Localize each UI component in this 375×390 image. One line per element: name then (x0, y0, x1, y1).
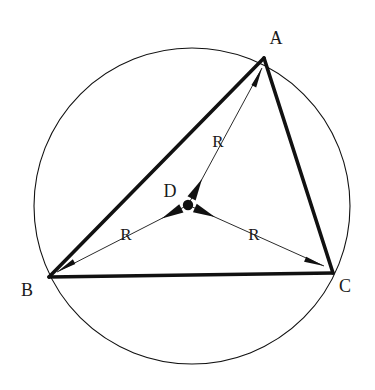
arrowhead-center-toward-B (162, 204, 184, 218)
radius-label-right: R (248, 225, 260, 244)
vertex-label-B: B (21, 280, 33, 300)
edge-AB (49, 58, 264, 277)
arrowhead-center-toward-A (188, 179, 203, 201)
center-point-label: D (164, 181, 177, 201)
arrowhead-at-vertex-C (304, 257, 324, 266)
figure-canvas: A B C D R R R (0, 0, 375, 390)
vertex-label-A: A (270, 28, 283, 48)
edge-BC (49, 273, 333, 277)
edge-CA (264, 58, 333, 273)
geometry-diagram: A B C D R R R (0, 0, 375, 390)
center-point-dot (183, 200, 193, 210)
radius-label-left: R (120, 225, 132, 244)
arrowhead-group-at-vertices (57, 68, 324, 272)
vertex-label-C: C (339, 276, 351, 296)
radius-label-upper: R (212, 132, 224, 151)
arrowhead-center-toward-C (193, 204, 215, 217)
